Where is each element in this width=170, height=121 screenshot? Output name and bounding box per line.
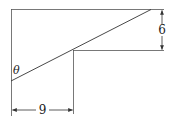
vertical-dimension-label: 6 [158, 23, 166, 37]
diagonal-line [11, 10, 151, 82]
horizontal-dimension-label: 9 [39, 103, 47, 117]
angle-theta-label: θ [13, 64, 20, 77]
geometry-diagram: 6 9 θ [0, 0, 170, 121]
diagram-canvas: 6 9 θ [0, 0, 170, 121]
